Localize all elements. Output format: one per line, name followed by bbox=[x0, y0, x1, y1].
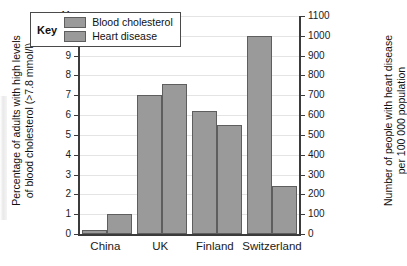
y-axis-left-tick bbox=[74, 194, 79, 195]
y-axis-left-tick bbox=[74, 175, 79, 176]
legend: Key Blood cholesterolHeart disease bbox=[30, 12, 181, 47]
x-axis-category-label: Finland bbox=[188, 240, 243, 252]
legend-item: Heart disease bbox=[64, 31, 173, 42]
y-axis-right-tick-label: 500 bbox=[308, 130, 325, 140]
y-axis-left-tick-label: 3 bbox=[65, 170, 71, 180]
y-axis-right-tick-label: 1000 bbox=[308, 31, 330, 41]
y-axis-right-title-line2: per 100 000 population bbox=[394, 16, 407, 226]
plot-area: 01234567891011 0100200300400500600700800… bbox=[78, 16, 301, 236]
y-axis-left-tick bbox=[74, 135, 79, 136]
y-axis-right-tick-label: 200 bbox=[308, 189, 325, 199]
legend-title: Key bbox=[37, 24, 57, 36]
bar bbox=[107, 214, 132, 234]
y-axis-left-tick bbox=[74, 155, 79, 156]
y-axis-right-tick-label: 100 bbox=[308, 209, 325, 219]
y-axis-right-tick bbox=[300, 135, 305, 136]
y-axis-left-title-line2: of blood cholesterol (>7.8 mmol/l) bbox=[22, 16, 35, 226]
bar bbox=[272, 186, 297, 234]
legend-item-label: Blood cholesterol bbox=[92, 17, 173, 28]
bar bbox=[192, 111, 217, 234]
legend-entries: Blood cholesterolHeart disease bbox=[64, 17, 173, 42]
bar bbox=[82, 230, 107, 234]
y-axis-right-tick bbox=[300, 95, 305, 96]
y-axis-right-tick-label: 400 bbox=[308, 150, 325, 160]
y-axis-left-tick-label: 9 bbox=[65, 51, 71, 61]
y-axis-right-tick bbox=[300, 214, 305, 215]
bar-series-container bbox=[80, 16, 299, 234]
x-axis-category-label: Switzerland bbox=[242, 240, 297, 252]
y-axis-left-tick-label: 7 bbox=[65, 90, 71, 100]
y-axis-left-title: Percentage of adults with high levels of… bbox=[10, 16, 35, 226]
y-axis-left-tick-label: 6 bbox=[65, 110, 71, 120]
y-axis-right-tick-label: 800 bbox=[308, 70, 325, 80]
y-axis-right-tick bbox=[300, 56, 305, 57]
legend-item: Blood cholesterol bbox=[64, 17, 173, 28]
bar bbox=[162, 84, 187, 234]
y-axis-left-tick-label: 2 bbox=[65, 189, 71, 199]
y-axis-left-tick bbox=[74, 95, 79, 96]
y-axis-right-tick-label: 1100 bbox=[308, 11, 330, 21]
y-axis-right-tick bbox=[300, 175, 305, 176]
y-axis-right-title: Number of people with heart disease per … bbox=[382, 16, 407, 226]
y-axis-left-tick-label: 4 bbox=[65, 150, 71, 160]
y-axis-right-tick bbox=[300, 115, 305, 116]
y-axis-right-tick bbox=[300, 234, 305, 235]
legend-item-label: Heart disease bbox=[92, 31, 157, 42]
x-axis-category-label: UK bbox=[133, 240, 188, 252]
y-axis-right-tick-label: 300 bbox=[308, 170, 325, 180]
legend-swatch bbox=[64, 17, 86, 28]
y-axis-left-tick bbox=[74, 56, 79, 57]
y-axis-left-tick bbox=[74, 115, 79, 116]
y-axis-left-tick-label: 8 bbox=[65, 70, 71, 80]
y-axis-right-tick bbox=[300, 16, 305, 17]
y-axis-right-tick-label: 900 bbox=[308, 51, 325, 61]
y-axis-right-tick bbox=[300, 36, 305, 37]
bar bbox=[137, 95, 162, 234]
bar bbox=[217, 125, 242, 234]
y-axis-right-tick bbox=[300, 194, 305, 195]
y-axis-left-title-line1: Percentage of adults with high levels bbox=[10, 16, 23, 226]
bar bbox=[247, 36, 272, 234]
y-axis-right-title-line1: Number of people with heart disease bbox=[382, 16, 395, 226]
y-axis-left-tick-label: 1 bbox=[65, 209, 71, 219]
y-axis-left-tick bbox=[74, 75, 79, 76]
y-axis-right-tick-label: 0 bbox=[308, 229, 314, 239]
y-axis-left-tick bbox=[74, 214, 79, 215]
legend-swatch bbox=[64, 31, 86, 42]
y-axis-right-tick-label: 600 bbox=[308, 110, 325, 120]
y-axis-right-tick bbox=[300, 155, 305, 156]
x-axis-category-label: China bbox=[78, 240, 133, 252]
y-axis-left-tick bbox=[74, 234, 79, 235]
y-axis-left-tick-label: 5 bbox=[65, 130, 71, 140]
y-axis-right-tick bbox=[300, 75, 305, 76]
y-axis-right-tick-label: 700 bbox=[308, 90, 325, 100]
y-axis-left-tick-label: 0 bbox=[65, 229, 71, 239]
